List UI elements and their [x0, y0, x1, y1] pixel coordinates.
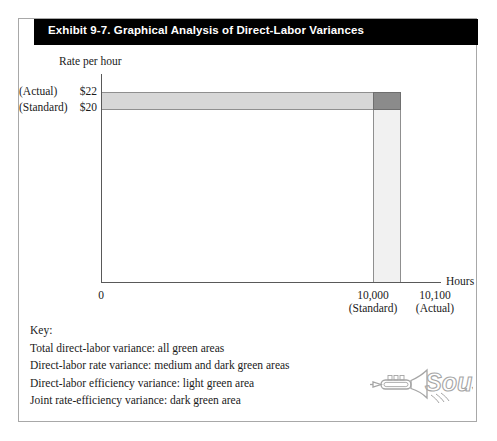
x-tick-zero-value: 0 [98, 289, 104, 301]
y-tick-standard-value: $20 [75, 101, 97, 113]
key-line-efficiency: Direct-labor efficiency variance: light … [30, 375, 360, 393]
y-tick-actual: (Actual)$22 [19, 85, 97, 97]
y-axis-line [101, 74, 102, 283]
key-line-rate: Direct-labor rate variance: medium and d… [30, 357, 360, 375]
efficiency-variance-region [373, 110, 401, 282]
exhibit-figure-frame: Exhibit 9-7. Graphical Analysis of Direc… [18, 18, 477, 422]
sousa-logo-text: Sousa [425, 368, 473, 396]
x-tick-actual-value: 10,100 [419, 289, 451, 301]
y-tick-actual-value: $22 [75, 85, 97, 97]
key-line-total: Total direct-labor variance: all green a… [30, 340, 360, 358]
x-tick-actual-qualifier: (Actual) [403, 302, 467, 314]
x-axis-line [101, 282, 441, 283]
chart-key: Key: Total direct-labor variance: all gr… [30, 322, 360, 410]
rate-variance-region [102, 92, 373, 110]
joint-variance-region [373, 92, 401, 110]
y-axis-title: Rate per hour [59, 55, 122, 67]
key-line-joint: Joint rate-efficiency variance: dark gre… [30, 392, 360, 410]
x-tick-standard-value: 10,000 [357, 289, 389, 301]
x-tick-standard-qualifier: (Standard) [341, 302, 405, 314]
x-tick-actual: 10,100 (Actual) [403, 289, 467, 314]
y-tick-standard-qualifier: (Standard) [19, 101, 75, 113]
x-tick-standard: 10,000 (Standard) [341, 289, 405, 314]
x-axis-title: Hours [446, 275, 474, 287]
x-tick-zero: 0 [79, 289, 123, 301]
key-heading: Key: [30, 322, 360, 340]
y-tick-actual-qualifier: (Actual) [19, 85, 75, 97]
sousa-logo: Sousa [369, 367, 473, 407]
y-tick-standard: (Standard)$20 [19, 101, 97, 113]
